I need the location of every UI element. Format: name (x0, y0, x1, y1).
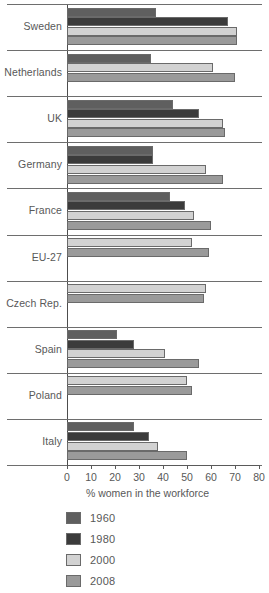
bar-eu-27-2000 (67, 238, 192, 247)
bar-spain-1980 (67, 340, 134, 349)
x-tick-label: 10 (85, 471, 97, 483)
category-label-czech-rep: Czech Rep. (0, 297, 62, 309)
bar-group (67, 281, 269, 327)
row-separator (7, 50, 262, 51)
category-label-sweden: Sweden (0, 20, 62, 32)
category-label-netherlands: Netherlands (0, 66, 62, 78)
chart-row: UK (0, 96, 269, 142)
x-tick-label: 60 (205, 471, 217, 483)
bar-italy-1960 (67, 422, 134, 431)
bar-germany-2000 (67, 165, 206, 174)
legend-swatch-1980 (66, 533, 81, 545)
legend-label-2008: 2008 (90, 575, 115, 587)
legend-label-1980: 1980 (90, 533, 115, 545)
bar-uk-1960 (67, 100, 173, 109)
category-label-poland: Poland (0, 389, 62, 401)
x-tick (91, 465, 92, 469)
x-tick (211, 465, 212, 469)
bar-czech-rep-2000 (67, 284, 206, 293)
bar-france-1960 (67, 192, 170, 201)
bar-group (67, 373, 269, 419)
bar-group (67, 419, 269, 465)
bar-group (67, 327, 269, 373)
bar-group (67, 188, 269, 234)
chart-row: Spain (0, 327, 269, 373)
x-tick-label: 50 (181, 471, 193, 483)
bar-spain-2000 (67, 349, 165, 358)
bar-czech-rep-2008 (67, 294, 204, 303)
legend-label-2000: 2000 (90, 554, 115, 566)
chart-row: Poland (0, 373, 269, 419)
x-axis-label: % women in the workforce (0, 487, 269, 499)
chart-legend: 1960198020002008 (66, 507, 206, 591)
bar-germany-2008 (67, 175, 223, 184)
bar-poland-2000 (67, 376, 187, 385)
bar-group (67, 50, 269, 96)
row-separator (7, 188, 262, 189)
category-label-germany: Germany (0, 158, 62, 170)
bar-germany-1960 (67, 146, 153, 155)
legend-swatch-2008 (66, 575, 81, 587)
x-tick-label: 70 (229, 471, 241, 483)
chart-row: EU-27 (0, 235, 269, 281)
row-separator (7, 235, 262, 236)
bar-eu-27-2008 (67, 248, 209, 257)
row-separator (7, 142, 262, 143)
plot-area: SwedenNetherlandsUKGermanyFranceEU-27Cze… (0, 0, 269, 470)
bar-italy-2008 (67, 451, 187, 460)
x-tick (187, 465, 188, 469)
x-tick (115, 465, 116, 469)
row-separator (7, 4, 262, 5)
bar-group (67, 96, 269, 142)
bar-sweden-2008 (67, 36, 237, 45)
bar-france-2008 (67, 221, 211, 230)
x-tick-label: 0 (64, 471, 70, 483)
chart-row: Netherlands (0, 50, 269, 96)
bar-group (67, 235, 269, 281)
bar-chart: SwedenNetherlandsUKGermanyFranceEU-27Cze… (0, 0, 269, 593)
x-tick (235, 465, 236, 469)
bar-sweden-1960 (67, 8, 156, 17)
x-tick-label: 40 (157, 471, 169, 483)
legend-item-2000: 2000 (66, 549, 206, 570)
chart-row: Czech Rep. (0, 281, 269, 327)
bar-netherlands-2008 (67, 73, 235, 82)
legend-label-1960: 1960 (90, 512, 115, 524)
bar-germany-1980 (67, 155, 153, 164)
row-separator (7, 419, 262, 420)
legend-swatch-2000 (66, 554, 81, 566)
bar-poland-2008 (67, 386, 192, 395)
category-label-spain: Spain (0, 343, 62, 355)
bar-sweden-1980 (67, 17, 228, 26)
x-tick-label: 30 (133, 471, 145, 483)
bar-sweden-2000 (67, 27, 237, 36)
category-label-france: France (0, 204, 62, 216)
x-tick (67, 465, 68, 469)
category-label-eu-27: EU-27 (0, 251, 62, 263)
chart-row: Germany (0, 142, 269, 188)
bar-italy-2000 (67, 442, 158, 451)
bar-spain-2008 (67, 359, 199, 368)
legend-item-2008: 2008 (66, 570, 206, 591)
x-tick (163, 465, 164, 469)
chart-row: Sweden (0, 4, 269, 50)
x-tick-label: 80 (253, 471, 265, 483)
bar-spain-1960 (67, 330, 117, 339)
bar-uk-1980 (67, 109, 199, 118)
category-label-uk: UK (0, 112, 62, 124)
legend-item-1980: 1980 (66, 528, 206, 549)
bar-netherlands-1960 (67, 54, 151, 63)
row-separator (7, 373, 262, 374)
x-tick (259, 465, 260, 469)
bar-uk-2008 (67, 128, 225, 137)
row-separator (7, 281, 262, 282)
bar-group (67, 4, 269, 50)
bar-italy-1980 (67, 432, 149, 441)
legend-swatch-1960 (66, 512, 81, 524)
category-label-italy: Italy (0, 435, 62, 447)
row-separator (7, 96, 262, 97)
legend-item-1960: 1960 (66, 507, 206, 528)
bar-netherlands-2000 (67, 63, 213, 72)
bar-france-1980 (67, 201, 185, 210)
chart-row: France (0, 188, 269, 234)
